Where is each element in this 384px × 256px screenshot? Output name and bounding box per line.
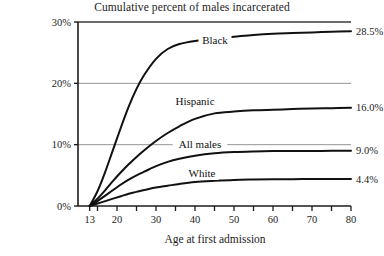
x-axis-tick-labels: 1320304050607080 [84, 214, 356, 225]
x-tick-label-80: 80 [346, 214, 357, 225]
y-tick-label-10: 10% [52, 139, 72, 150]
series-value-white: 4.4% [356, 174, 378, 185]
x-tick-label-40: 40 [190, 214, 201, 225]
x-tick-label-13: 13 [84, 214, 95, 225]
series-value-black: 28.5% [356, 26, 383, 37]
series-label-hispanic: Hispanic [175, 95, 214, 107]
series-line-hispanic [90, 108, 351, 206]
x-tick-label-30: 30 [151, 214, 162, 225]
x-tick-label-20: 20 [112, 214, 123, 225]
chart-plot-area: 0%10%20%30% 1320304050607080 BlackHispan… [0, 0, 384, 256]
chart-container: Cumulative percent of males incarcerated… [0, 0, 384, 256]
series-value-hispanic: 16.0% [356, 102, 383, 113]
series-label-white: White [189, 167, 216, 179]
series-label-all-males: All males [179, 138, 221, 150]
series-line-white [90, 179, 351, 206]
x-axis-title: Age at first admission [164, 233, 265, 246]
series-value-all-males: 9.0% [356, 145, 378, 156]
x-tick-label-70: 70 [307, 214, 318, 225]
series-label-black: Black [202, 34, 228, 46]
y-axis-tick-labels: 0%10%20%30% [52, 17, 72, 212]
y-tick-label-0: 0% [57, 201, 71, 212]
series-value-labels-group: 28.5%16.0%9.0%4.4% [356, 26, 383, 185]
series-curves-group [90, 31, 351, 206]
x-tick-label-60: 60 [268, 214, 279, 225]
y-tick-label-20: 20% [52, 78, 72, 89]
x-tick-label-50: 50 [229, 214, 240, 225]
y-tick-label-30: 30% [52, 17, 72, 28]
